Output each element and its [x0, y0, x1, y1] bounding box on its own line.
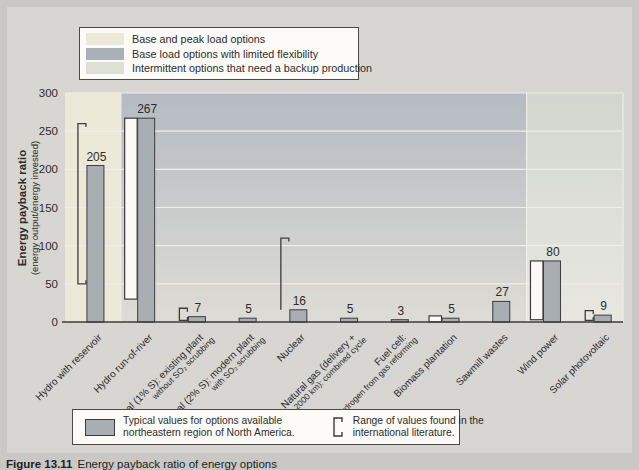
- range-values-line1: Range of values found in the: [353, 415, 484, 427]
- value-label: 267: [137, 102, 157, 116]
- book-figure-page: { "colors": { "page_bg": "#c9c8c5", "fig…: [0, 0, 639, 470]
- typical-values-text: Typical values for options available nor…: [123, 415, 295, 439]
- y-tick-label: 0: [52, 316, 58, 328]
- symbol-legend-box: Typical values for options available nor…: [72, 409, 460, 445]
- y-tick-label: 150: [39, 202, 58, 214]
- category-label-group: Wind power: [515, 331, 561, 377]
- category-label-group: Sawmill wastes: [454, 332, 510, 388]
- range-rect: [530, 261, 543, 320]
- legend-row-base-load: Base load options with limited flexibili…: [80, 48, 358, 60]
- category-sublabel: without SO₂ scrubbing: [149, 335, 216, 402]
- value-label: 5: [448, 302, 455, 316]
- typical-values-line1: Typical values for options available: [123, 415, 295, 427]
- legend-row-intermittent: Intermittent options that need a backup …: [80, 62, 358, 74]
- base-peak-swatch-icon: [86, 33, 124, 45]
- category-label: Wind power: [515, 331, 561, 377]
- bar: [594, 315, 611, 322]
- y-tick-label: 300: [39, 87, 58, 99]
- category-label-group: Nuclear: [275, 331, 308, 364]
- bar: [138, 118, 155, 322]
- figure-caption-number: Figure 13.11: [6, 458, 72, 470]
- category-label-group: Hydro with reservoir: [33, 331, 104, 402]
- category-label: Sawmill wastes: [454, 332, 510, 388]
- base-load-swatch-icon: [86, 48, 124, 60]
- range-values-text: Range of values found in the internation…: [353, 415, 484, 439]
- figure-caption: Figure 13.11Energy payback ratio of ener…: [6, 458, 277, 470]
- typical-value-bar-swatch-icon: [85, 419, 115, 436]
- y-axis-title: Energy payback ratio: [16, 150, 28, 266]
- y-tick-label: 100: [39, 240, 58, 252]
- y-tick-label: 200: [39, 163, 58, 175]
- range-values-line2: international literature.: [353, 427, 484, 439]
- y-axis-subtitle: (energy output/energy invested): [29, 141, 40, 275]
- legend-row-base-peak: Base and peak load options: [80, 33, 358, 45]
- bar: [87, 166, 104, 322]
- bar: [543, 261, 560, 322]
- legend-label: Base load options with limited flexibili…: [132, 48, 318, 60]
- category-label: Nuclear: [275, 331, 308, 364]
- bar: [290, 310, 307, 322]
- intermittent-swatch-icon: [86, 62, 124, 74]
- legend-item-typical-values: Typical values for options available nor…: [85, 415, 295, 439]
- value-label: 205: [86, 150, 106, 164]
- bar-group-sawmill-wastes: 27: [493, 285, 510, 322]
- typical-values-line2: northeastern region of North America.: [123, 427, 295, 439]
- range-rect: [429, 316, 442, 322]
- range-rect: [125, 118, 138, 299]
- range-bracket-icon: [331, 415, 345, 439]
- bar-group-hydro-run-of-river: 267: [125, 102, 158, 322]
- value-label: 16: [293, 294, 307, 308]
- legend-label: Base and peak load options: [132, 33, 265, 45]
- zone-legend-box: Base and peak load options Base load opt…: [79, 27, 359, 80]
- value-label: 3: [397, 304, 404, 318]
- value-label: 5: [347, 302, 354, 316]
- bar: [188, 317, 205, 322]
- legend-item-range-values: Range of values found in the internation…: [331, 415, 484, 439]
- value-label: 9: [600, 299, 607, 313]
- y-tick-label: 50: [45, 278, 58, 290]
- bar: [493, 301, 510, 322]
- category-label: Hydro with reservoir: [33, 331, 104, 402]
- value-label: 5: [245, 302, 252, 316]
- value-label: 80: [546, 245, 560, 259]
- y-tick-label: 250: [39, 125, 58, 137]
- legend-label: Intermittent options that need a backup …: [132, 62, 372, 74]
- value-label: 7: [195, 301, 202, 315]
- figure-caption-text: Energy payback ratio of energy options: [77, 458, 276, 470]
- value-label: 27: [496, 285, 510, 299]
